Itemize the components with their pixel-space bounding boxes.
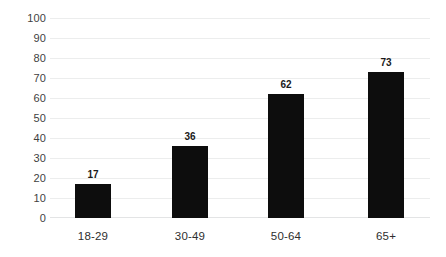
x-tick-label: 50-64 — [241, 229, 331, 243]
y-tick-label: 20 — [0, 173, 46, 184]
y-tick-label: 50 — [0, 113, 46, 124]
bar-value-label: 36 — [167, 132, 213, 142]
bar[interactable] — [75, 184, 111, 218]
x-tick-label: 65+ — [341, 229, 431, 243]
y-tick-label: 0 — [0, 213, 46, 224]
bar[interactable] — [172, 146, 208, 218]
bar-chart: 100 90 80 70 60 50 40 30 20 10 0 17 36 6… — [0, 0, 446, 257]
x-tick-label: 18-29 — [48, 229, 138, 243]
plot-area: 17 36 62 73 — [50, 18, 430, 218]
gridline — [50, 38, 430, 39]
y-tick-label: 40 — [0, 133, 46, 144]
y-tick-label: 30 — [0, 153, 46, 164]
bar-value-label: 62 — [263, 80, 309, 90]
x-tick-label: 30-49 — [145, 229, 235, 243]
y-tick-label: 10 — [0, 193, 46, 204]
bar-value-label: 17 — [70, 170, 116, 180]
y-axis: 100 90 80 70 60 50 40 30 20 10 0 — [0, 18, 46, 218]
bar-value-label: 73 — [363, 58, 409, 68]
y-tick-label: 70 — [0, 73, 46, 84]
y-tick-label: 80 — [0, 53, 46, 64]
y-tick-label: 90 — [0, 33, 46, 44]
x-axis: 18-29 30-49 50-64 65+ — [50, 229, 430, 249]
gridline — [50, 18, 430, 19]
bar[interactable] — [368, 72, 404, 218]
y-tick-label: 100 — [0, 13, 46, 24]
bar[interactable] — [268, 94, 304, 218]
y-tick-label: 60 — [0, 93, 46, 104]
